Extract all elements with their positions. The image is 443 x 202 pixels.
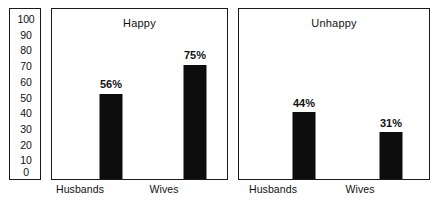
y-axis-tick: 90 [10, 30, 42, 40]
bar-group-husbands: 44% [264, 9, 344, 179]
bar-wives [184, 65, 207, 179]
panel-happy: Happy 56% 75% [51, 8, 228, 180]
bar-value: 44% [293, 98, 315, 109]
y-axis-tick: 40 [10, 108, 42, 118]
bar-value: 75% [184, 50, 206, 61]
y-axis-tick: 60 [10, 77, 42, 87]
y-axis-tick: 70 [10, 61, 42, 71]
y-axis-tick: 80 [10, 45, 42, 55]
bar-husbands [293, 112, 316, 179]
plot-area-unhappy: 44% 31% [239, 9, 429, 179]
category-label-unhappy-wives: Wives [310, 183, 410, 195]
bar-chart-figure: 100 90 80 70 60 50 40 30 20 10 0 Happy 5… [0, 0, 443, 202]
category-label-happy-wives: Wives [114, 183, 214, 195]
bar-group-wives: 31% [351, 9, 431, 179]
bar-value: 31% [380, 118, 402, 129]
bar-group-wives: 75% [155, 9, 235, 179]
bar-wives [380, 132, 403, 179]
y-axis-tick: 30 [10, 124, 42, 134]
category-label-unhappy-husbands: Husbands [223, 183, 323, 195]
bar-group-husbands: 56% [71, 9, 151, 179]
bar-husbands [100, 94, 123, 180]
y-axis-tick: 10 [10, 155, 42, 165]
y-axis-tick: 100 [10, 14, 42, 24]
y-axis-tick: 50 [10, 93, 42, 103]
panel-unhappy: Unhappy 44% 31% [238, 8, 430, 180]
plot-area-happy: 56% 75% [52, 9, 227, 179]
bar-value: 56% [100, 79, 122, 90]
y-axis-scale: 100 90 80 70 60 50 40 30 20 10 0 [9, 8, 41, 180]
y-axis-tick: 0 [10, 167, 42, 177]
y-axis-tick: 20 [10, 140, 42, 150]
